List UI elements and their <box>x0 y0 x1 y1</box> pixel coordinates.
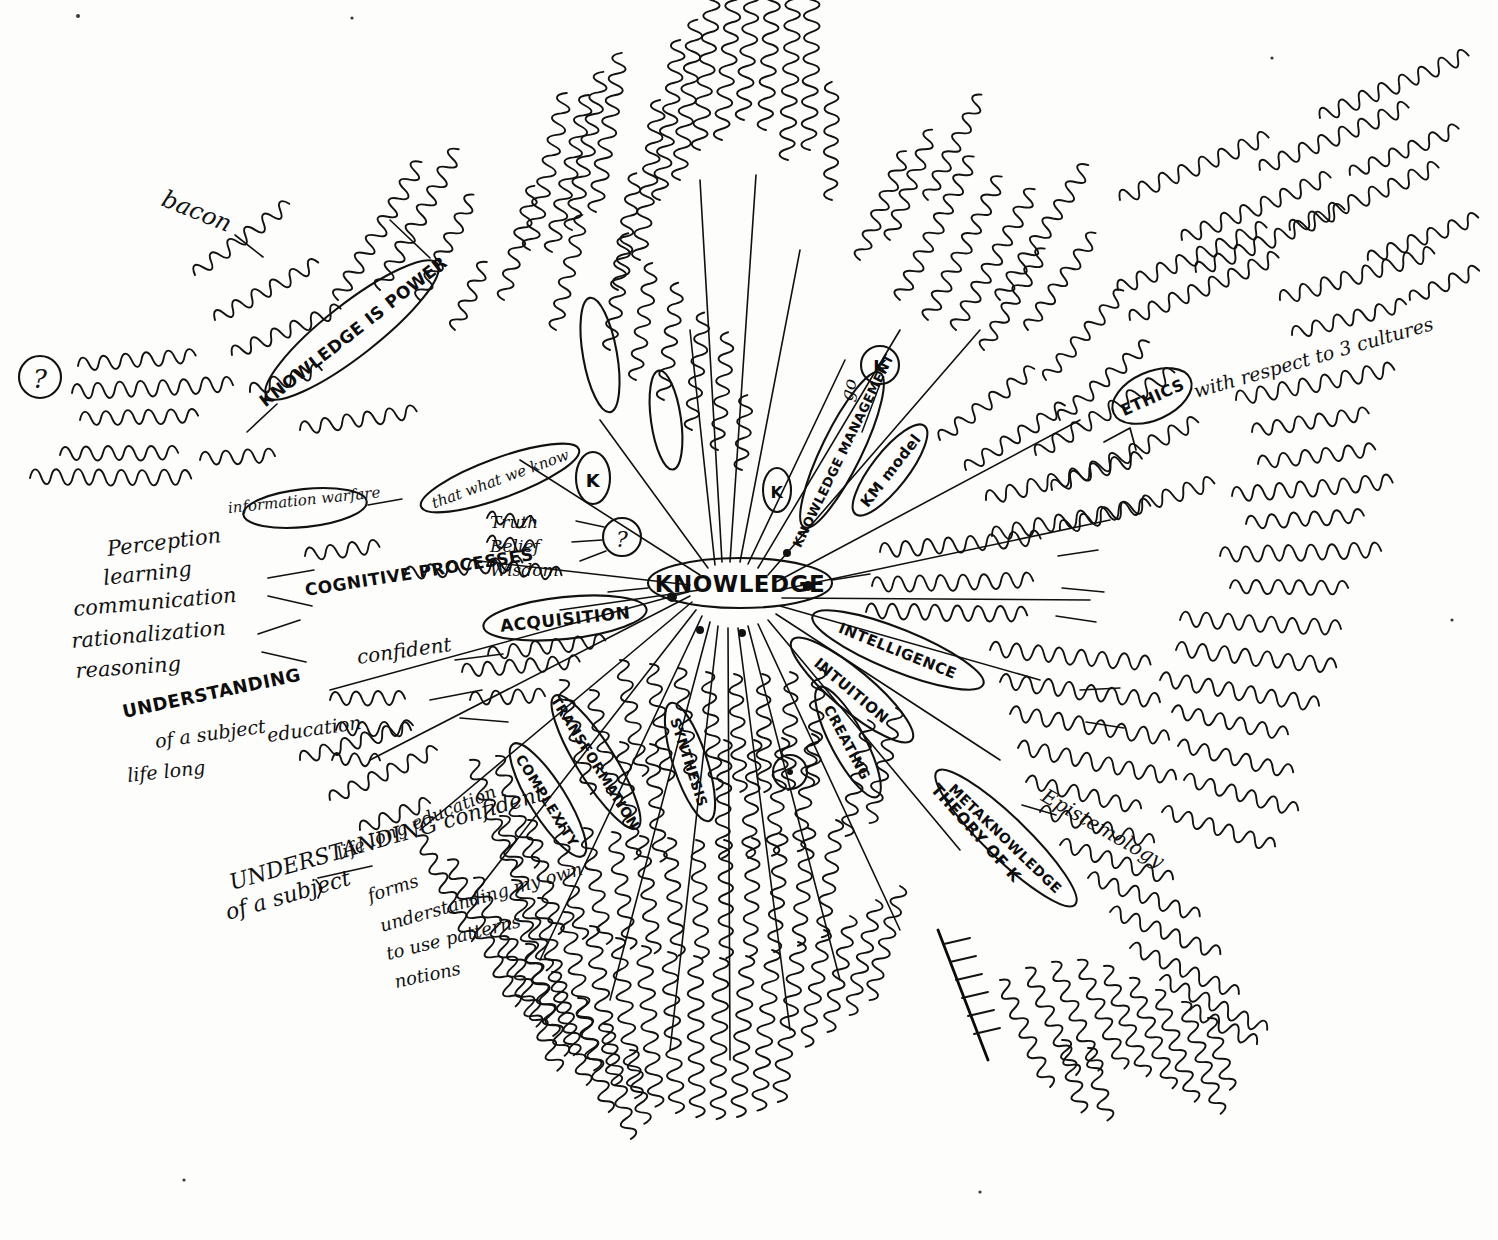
svg-text:?: ? <box>33 364 48 394</box>
svg-text:K: K <box>771 483 784 502</box>
svg-text:?: ? <box>616 527 628 552</box>
note-learning: learning <box>102 557 193 590</box>
circled-k-acq[interactable]: K <box>576 452 610 504</box>
note-go: go <box>835 376 860 402</box>
note-truth: Truth <box>490 512 538 532</box>
svg-text:bacon: bacon <box>158 185 236 238</box>
circled-question-left[interactable]: ? <box>19 356 61 398</box>
note-confident: confident <box>355 632 453 669</box>
mindmap-canvas: KNOWLEDGE KNOWLEDGE IS POWER bacon ? <box>0 0 1498 1240</box>
note-forms-cluster: UNDERSTANDING confident of a subject lif… <box>222 712 584 991</box>
handwriting-far-right <box>1114 40 1481 852</box>
svg-text:notions: notions <box>392 957 462 991</box>
circled-k-center[interactable]: K <box>763 468 791 512</box>
note-ethics-cultures: with respect to 3 cultures <box>1191 312 1436 402</box>
paper-specks <box>76 14 1454 1194</box>
handwriting-top-left: information warfare <box>30 142 492 534</box>
mindmap-page: KNOWLEDGE KNOWLEDGE IS POWER bacon ? <box>0 0 1498 1240</box>
note-bacon: bacon <box>158 185 263 257</box>
handwriting-mid-right <box>866 358 1273 1049</box>
circled-question-mid[interactable]: ? <box>572 518 641 561</box>
note-communication: communication <box>72 583 237 621</box>
note-subject: of a subject <box>153 715 267 752</box>
svg-text:forms: forms <box>363 870 421 907</box>
note-perception: Perception <box>105 523 223 561</box>
center-node[interactable]: KNOWLEDGE <box>608 558 870 608</box>
note-rationalization: rationalization <box>70 616 226 653</box>
note-lifelong: life long <box>126 756 206 786</box>
note-reasoning: reasoning <box>75 652 182 683</box>
handwriting-bottom-right <box>938 930 1241 1122</box>
svg-text:K: K <box>586 470 601 491</box>
note-epistemology: Epistemology <box>1037 783 1170 873</box>
branch-metaknowledge[interactable]: METAKNOWLEDGE <box>922 756 1089 920</box>
handwriting-top <box>497 0 844 472</box>
branch-synthesis[interactable]: SYNTHESIS <box>655 698 726 826</box>
branch-knowledge-is-power[interactable]: KNOWLEDGE IS POWER <box>247 220 453 432</box>
center-label: KNOWLEDGE <box>655 571 826 597</box>
branch-knowledge-management[interactable]: KNOWLEDGE MANAGEMENT go KM model <box>786 351 938 549</box>
